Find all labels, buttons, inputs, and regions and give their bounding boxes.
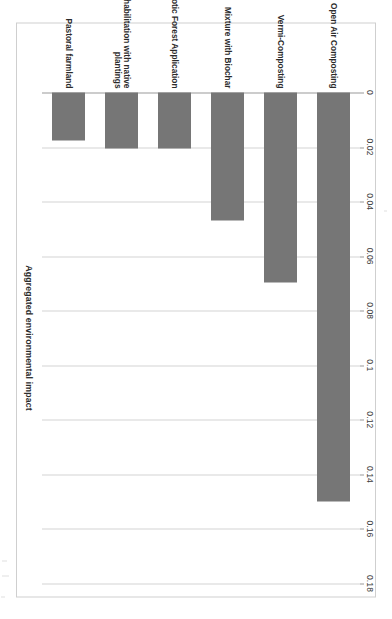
tick-label: 0 <box>365 90 375 95</box>
bar-row: Vermi-Composting <box>264 92 297 583</box>
category-label: Mixture with Biochar <box>223 0 232 88</box>
tick-mark <box>360 310 364 311</box>
scanned-page: 00.020.040.060.080.10.120.140.160.18 Ope… <box>0 0 392 619</box>
bar-row: Open Air Composting <box>317 92 350 583</box>
bar-row: Mixture with Biochar <box>211 92 244 583</box>
category-label: Exotic Forest Application <box>170 0 179 88</box>
scan-artifact <box>2 575 9 577</box>
scan-artifact <box>384 210 387 212</box>
scan-artifact <box>1 596 5 598</box>
bar <box>317 92 350 501</box>
category-label: Pastoral farmland <box>64 0 73 88</box>
tick-mark <box>360 256 364 257</box>
scan-artifact <box>2 560 7 562</box>
bar-row: Pastoral farmland <box>52 92 85 583</box>
tick-label: 0.14 <box>365 465 375 482</box>
category-label: Vermi-Composting <box>276 0 285 88</box>
bar <box>264 92 297 282</box>
tick-label: 0.08 <box>365 302 375 319</box>
tick-mark <box>360 365 364 366</box>
tick-label: 0.16 <box>365 520 375 537</box>
category-label: Open Air Composting <box>329 0 338 88</box>
bar <box>211 92 244 220</box>
tick-mark <box>360 528 364 529</box>
category-label: Rehabilitation with native plantings <box>113 0 130 88</box>
tick-label: 0.18 <box>365 575 375 592</box>
bar <box>158 92 191 148</box>
tick-label: 0.1 <box>365 359 375 371</box>
tick-mark <box>360 583 364 584</box>
tick-mark <box>360 474 364 475</box>
bar <box>52 92 85 140</box>
tick-label: 0.02 <box>365 138 375 155</box>
bar-series: Open Air CompostingVermi-CompostingMixtu… <box>42 92 360 583</box>
tick-mark <box>360 201 364 202</box>
bar-chart: 00.020.040.060.080.10.120.140.160.18 Ope… <box>16 22 376 597</box>
bar-row: Exotic Forest Application <box>158 92 191 583</box>
bar-row: Rehabilitation with native plantings <box>105 92 138 583</box>
bar <box>105 92 138 148</box>
x-axis-title: Aggregated environmental impact <box>24 92 34 583</box>
tick-mark <box>360 92 364 93</box>
tick-label: 0.06 <box>365 247 375 264</box>
tick-label: 0.04 <box>365 193 375 210</box>
tick-mark <box>360 419 364 420</box>
tick-mark <box>360 147 364 148</box>
tick-label: 0.12 <box>365 411 375 428</box>
plot-area: 00.020.040.060.080.10.120.140.160.18 Ope… <box>42 92 360 583</box>
